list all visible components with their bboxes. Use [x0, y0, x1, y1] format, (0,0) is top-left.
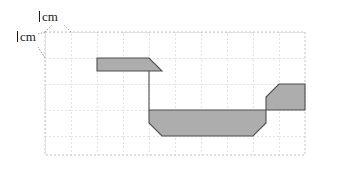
- horizontal-unit-label: cm: [39, 10, 58, 23]
- unit-tick-icon: [17, 31, 18, 42]
- figure-canvas: cm cm: [0, 0, 351, 181]
- vertical-unit-label: cm: [17, 30, 36, 43]
- leader-line-vertical-bottom: [38, 47, 45, 58]
- unit-tick-icon: [39, 11, 40, 22]
- vertical-unit-text: cm: [20, 29, 36, 44]
- leader-line-vertical-top: [38, 32, 45, 34]
- horizontal-unit-text: cm: [42, 9, 58, 24]
- leader-line-horizontal-right: [64, 25, 71, 32]
- grid-shape-diagram: [0, 0, 351, 181]
- leader-line-horizontal-left: [45, 25, 52, 32]
